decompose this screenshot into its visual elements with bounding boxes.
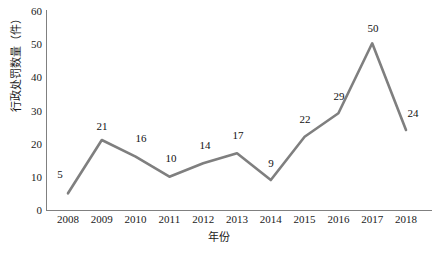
line-chart: 行政处罚数量（件） 60 50 40 30 20 10 0 5 21 16 10… bbox=[0, 0, 437, 254]
data-line-series-0 bbox=[68, 43, 406, 193]
data-label-2010: 16 bbox=[126, 132, 156, 144]
data-label-2009: 21 bbox=[87, 120, 117, 132]
data-label-2017: 50 bbox=[358, 22, 388, 34]
x-tick-label-2018: 2018 bbox=[383, 213, 429, 226]
data-label-2018: 24 bbox=[398, 107, 428, 119]
x-axis-title: 年份 bbox=[0, 230, 437, 244]
data-label-2008: 5 bbox=[45, 168, 75, 180]
data-label-2011: 10 bbox=[156, 152, 186, 164]
data-label-2012: 14 bbox=[190, 139, 220, 151]
data-label-2016: 29 bbox=[324, 90, 354, 102]
data-label-2015: 22 bbox=[290, 113, 320, 125]
data-label-2014: 9 bbox=[256, 157, 286, 169]
data-label-2013: 17 bbox=[223, 129, 253, 141]
